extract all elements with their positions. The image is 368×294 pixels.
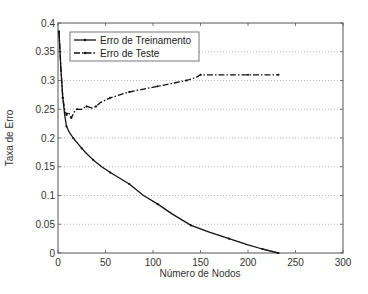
x-tick-label: 250 [287, 257, 304, 268]
y-tick-label: 0.15 [36, 161, 56, 172]
data-point-marker [95, 105, 97, 107]
y-tick-label: 0.4 [41, 18, 55, 29]
legend-label-test: Erro de Teste [100, 48, 160, 59]
series-training-error [59, 32, 278, 253]
data-point-marker [92, 159, 94, 161]
data-point-marker [190, 224, 192, 226]
y-tick-label: 0 [49, 248, 55, 259]
y-tick-label: 0.1 [41, 190, 55, 201]
data-point-marker [109, 97, 111, 99]
data-point-marker [247, 74, 249, 76]
line-chart: 050100150200250300 00.050.10.150.20.250.… [0, 0, 368, 294]
data-point-marker [157, 85, 159, 87]
data-point-marker [72, 137, 74, 139]
data-point-marker [185, 79, 187, 81]
y-tick-label: 0.05 [36, 219, 56, 230]
data-point-marker [81, 147, 83, 149]
legend: Erro de Treinamento Erro de Teste [70, 32, 199, 61]
data-point-marker [70, 117, 72, 119]
data-point-marker [157, 203, 159, 205]
x-tick-label: 0 [55, 257, 61, 268]
data-point-marker [199, 74, 201, 76]
data-point-marker [109, 171, 111, 173]
series-lines [58, 31, 280, 255]
legend-marker-training [84, 39, 87, 42]
x-tick-label: 300 [335, 257, 352, 268]
data-point-marker [65, 125, 67, 127]
legend-marker-test [84, 52, 87, 55]
x-tick-label: 200 [240, 257, 257, 268]
legend-label-training: Erro de Treinamento [100, 35, 192, 46]
data-point-marker [128, 91, 130, 93]
data-point-marker [261, 248, 263, 250]
grid-lines [58, 52, 343, 225]
x-tick-label: 100 [145, 257, 162, 268]
data-point-marker [85, 105, 87, 107]
data-point-marker [277, 74, 279, 76]
data-point-marker [128, 183, 130, 185]
data-point-marker [277, 252, 279, 254]
y-tick-label: 0.3 [41, 75, 55, 86]
x-axis-label: Número de Nodos [159, 268, 240, 279]
y-tick-label: 0.2 [41, 133, 55, 144]
data-point-marker [65, 114, 67, 116]
data-point-marker [76, 108, 78, 110]
y-tick-label: 0.25 [36, 104, 56, 115]
x-tick-label: 50 [100, 257, 112, 268]
data-point-marker [58, 31, 60, 33]
x-tick-label: 150 [192, 257, 209, 268]
y-tick-label: 0.35 [36, 46, 56, 57]
data-point-marker [62, 97, 64, 99]
y-axis-label: Taxa de Erro [4, 109, 15, 166]
data-point-marker [228, 238, 230, 240]
